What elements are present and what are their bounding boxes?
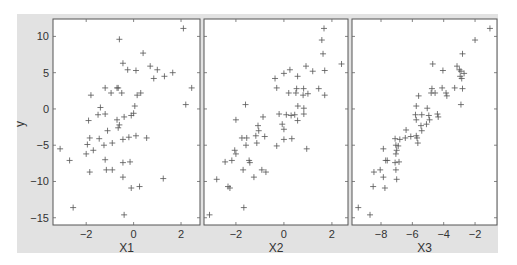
x-tick-label: −2	[80, 228, 93, 240]
scatter-panels: −2021050−5−10−15X1y−202X2−8−6−4−2X3	[13, 19, 497, 255]
y-tick-label: −10	[30, 175, 49, 187]
plot-area	[204, 19, 348, 225]
plot-area	[352, 19, 497, 225]
scatter-matrix-figure: −2021050−5−10−15X1y−202X2−8−6−4−2X3	[0, 0, 517, 265]
x-tick-label: 0	[131, 228, 137, 240]
y-tick-label: 5	[43, 67, 49, 79]
y-tick-label: 0	[43, 103, 49, 115]
scatter-panel-x2: −202X2	[204, 19, 348, 255]
x-tick-label: 2	[329, 228, 335, 240]
y-tick-label: −5	[36, 139, 49, 151]
scatter-panel-x3: −8−6−4−2X3	[352, 19, 497, 255]
x-tick-label: −8	[375, 228, 388, 240]
x-tick-label: 2	[178, 228, 184, 240]
x-tick-label: 0	[281, 228, 287, 240]
x-tick-label: −4	[437, 228, 450, 240]
x-tick-label: −6	[406, 228, 419, 240]
x-axis-label: X1	[119, 241, 134, 255]
y-tick-label: −15	[30, 212, 49, 224]
x-axis-label: X2	[269, 241, 284, 255]
x-tick-label: −2	[230, 228, 243, 240]
x-axis-label: X3	[417, 241, 432, 255]
x-tick-label: −2	[469, 228, 482, 240]
y-axis-label: y	[13, 121, 27, 127]
y-tick-label: 10	[37, 30, 49, 42]
plot-area	[53, 19, 200, 225]
